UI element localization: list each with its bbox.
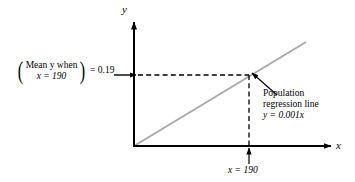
regression-line-annotation: Population regression line y = 0.001x xyxy=(263,88,319,122)
annotation-line-2: regression line xyxy=(263,99,319,110)
paren-close-icon: ) xyxy=(80,58,85,84)
annotation-line-1: Population xyxy=(263,88,319,99)
mean-value: = 0.19 xyxy=(90,65,114,76)
x-axis-label: x xyxy=(336,139,341,152)
regression-diagram: y x ( Mean y when x = 190 ) = 0.19 Popul… xyxy=(0,0,355,182)
mean-y-label: ( Mean y when x = 190 ) = 0.19 xyxy=(16,58,114,84)
x-value-label: x = 190 xyxy=(228,165,258,176)
mean-expression-stack: Mean y when x = 190 xyxy=(25,60,79,82)
paren-open-icon: ( xyxy=(18,58,23,84)
mean-label-line-2: x = 190 xyxy=(37,71,67,82)
annotation-equation: y = 0.001x xyxy=(263,110,319,121)
mean-label-line-1: Mean y when xyxy=(26,60,78,71)
y-axis-label: y xyxy=(122,3,127,16)
